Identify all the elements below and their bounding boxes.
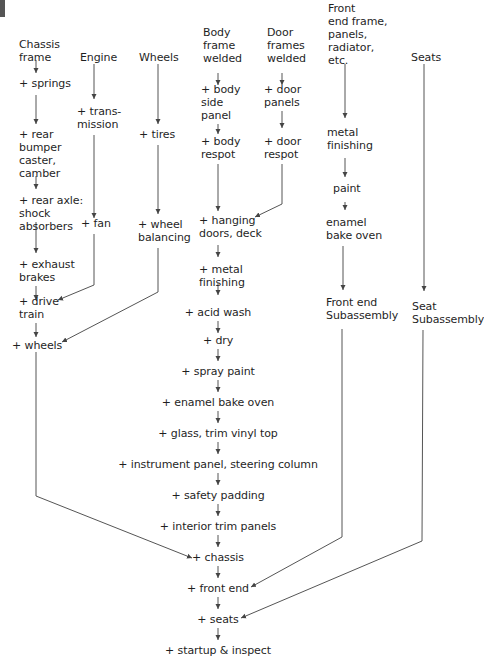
main-startup-inspect: + startup & inspect: [128, 644, 308, 657]
step-front-paint: paint: [333, 182, 361, 195]
step-fan: + fan: [81, 217, 111, 230]
main-enamel-bake-oven: + enamel bake oven: [118, 396, 318, 409]
seat-subassembly: Seat Subassembly: [412, 300, 484, 326]
step-springs: + springs: [19, 77, 71, 90]
main-seats: + seats: [148, 613, 288, 626]
step-drive-train: + drive train: [19, 295, 59, 321]
step-wheels: + wheels: [12, 339, 62, 352]
step-tires: + tires: [139, 128, 175, 141]
door-frames-header: Door frames welded: [267, 26, 306, 65]
step-rear-bumper: + rear bumper caster, camber: [19, 128, 61, 180]
seats-header: Seats: [411, 51, 441, 64]
step-rear-axle: + rear axle: shock absorbers: [19, 194, 83, 233]
engine-header: Engine: [80, 51, 117, 64]
main-acid-wash: + acid wash: [148, 306, 288, 319]
main-instrument-panel: + instrument panel, steering column: [88, 458, 348, 471]
main-front-end: + front end: [148, 582, 288, 595]
main-dry: + dry: [148, 334, 288, 347]
chassis-frame-header: Chassis frame: [19, 38, 60, 64]
main-interior-trim: + interior trim panels: [118, 520, 318, 533]
front-end-header: Front end frame, panels, radiator, etc.: [328, 2, 387, 67]
main-metal-finishing: + metal finishing: [199, 263, 245, 289]
front-end-subassembly: Front end Subassembly: [326, 296, 398, 322]
step-exhaust-brakes: + exhaust brakes: [19, 258, 75, 284]
step-front-enamel-bake-oven: enamel bake oven: [326, 216, 382, 242]
step-transmission: + trans- mission: [77, 105, 121, 131]
step-door-panels: + door panels: [264, 83, 301, 109]
step-front-metal-finishing: metal finishing: [327, 126, 373, 152]
body-frame-header: Body frame welded: [203, 26, 242, 65]
step-wheel-balancing: + wheel balancing: [138, 218, 191, 244]
main-glass-trim: + glass, trim vinyl top: [108, 427, 328, 440]
step-body-side-panel: + body side panel: [201, 83, 240, 122]
main-hanging-doors: + hanging doors, deck: [199, 214, 262, 240]
wheels-header: Wheels: [139, 51, 179, 64]
main-chassis: + chassis: [148, 551, 288, 564]
step-body-respot: + body respot: [201, 135, 240, 161]
step-door-respot: + door respot: [264, 135, 301, 161]
main-spray-paint: + spray paint: [128, 365, 308, 378]
main-safety-padding: + safety padding: [128, 489, 308, 502]
